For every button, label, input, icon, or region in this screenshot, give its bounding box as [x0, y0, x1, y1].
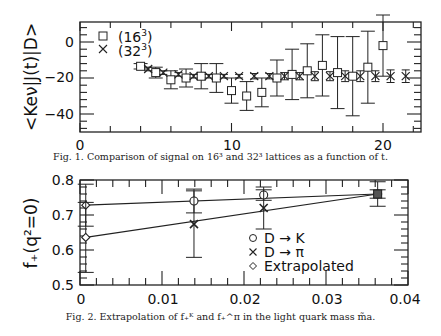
square-marker	[228, 87, 236, 95]
square-marker	[303, 67, 311, 75]
square-marker	[349, 72, 357, 80]
fig1-caption: Fig. 1. Comparison of signal on 16³ and …	[0, 151, 441, 162]
cross-marker	[190, 72, 198, 80]
overlap-marker	[374, 190, 382, 198]
fig2-ytick-05: 0.5	[52, 277, 74, 293]
fig2-legend: D → K D → π Extrapolated	[250, 230, 354, 274]
fig2-caption: Fig. 2. Extrapolation of f₊ᴷ and f₊^π in…	[0, 311, 441, 322]
fig2-xtick-003: 0.03	[311, 291, 342, 307]
square-marker	[318, 61, 326, 69]
fit-line	[86, 194, 378, 205]
square-marker	[182, 74, 190, 82]
fig1-y-axis-label: <Keν|J(t)|D>	[21, 23, 41, 131]
fig2-frame	[80, 180, 408, 285]
fig1-legend-label-32: (323)	[118, 42, 152, 59]
fig2-ytick-06: 0.6	[52, 242, 74, 258]
fig1-ytick-0: 0	[65, 34, 74, 50]
square-marker	[137, 62, 145, 70]
fig2-ytick-07: 0.7	[52, 207, 74, 223]
fig2-xtick-001: 0.01	[147, 291, 178, 307]
fig2-y-axis-label: f₊(q²=0)	[21, 198, 41, 269]
cross-marker	[220, 72, 228, 80]
fig1-data-points	[134, 15, 410, 116]
square-marker	[167, 76, 175, 84]
figure-canvas: <Keν|J(t)|D> 0 10 20 0 −20 −40 (163) (32…	[0, 0, 441, 336]
square-marker-icon	[99, 32, 107, 40]
square-marker	[258, 88, 266, 96]
cross-marker	[159, 69, 167, 77]
fit-line	[86, 194, 378, 237]
fig1-ytick-m20: −20	[44, 69, 74, 85]
square-marker	[152, 69, 160, 77]
diamond-marker-icon	[250, 263, 257, 270]
square-marker	[243, 92, 251, 100]
fig1-ytick-m40: −40	[44, 106, 74, 122]
fig2-xtick-002: 0.02	[229, 291, 260, 307]
fig2-ytick-08: 0.8	[52, 172, 74, 188]
square-marker	[212, 74, 220, 82]
fig1-legend: (163) (323)	[99, 28, 152, 59]
cross-marker	[235, 72, 243, 80]
square-marker	[288, 70, 296, 78]
fig1-plot: <Keν|J(t)|D> 0 10 20 0 −20 −40 (163) (32…	[21, 15, 421, 153]
square-marker	[364, 63, 372, 71]
fig2-plot: f₊(q²=0) 0 0.01 0.02 0.03 0.04 0.5 0.6 0…	[21, 172, 421, 307]
square-marker	[273, 74, 281, 82]
cross-marker-icon	[99, 45, 107, 53]
circle-marker-icon	[250, 235, 257, 242]
fig2-legend-label-extrap: Extrapolated	[264, 258, 354, 274]
square-marker	[197, 72, 205, 80]
diamond-marker	[82, 233, 90, 241]
fig2-ticks	[80, 180, 408, 285]
fig2-xtick-004: 0.04	[389, 291, 420, 307]
cross-marker-icon	[250, 249, 257, 256]
square-marker	[379, 42, 387, 50]
cross-marker	[205, 72, 213, 80]
cross-marker	[174, 70, 182, 78]
square-marker	[334, 69, 342, 77]
fig2-xtick-0: 0	[77, 291, 86, 307]
